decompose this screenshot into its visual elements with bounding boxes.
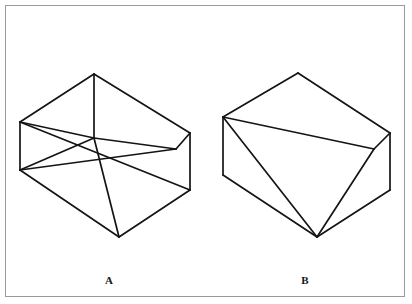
figure-a-drawing	[20, 74, 190, 237]
figure-b-edge-upper_left-to-bottom_apex	[223, 117, 317, 237]
figure-b-edge-lower_left-to-bottom_apex	[223, 175, 317, 237]
figure-b-edge-right_mid-to-upper_right	[374, 133, 390, 149]
figure-b-edge-right_mid-to-bottom_apex	[317, 149, 374, 237]
figure-b-drawing	[223, 73, 390, 237]
figure-a-edge-top_apex-to-upper_right	[94, 74, 190, 133]
figure-b-edge-upper_left-to-right_mid	[223, 117, 374, 149]
figure-page: A B	[0, 0, 412, 304]
figure-a-edge-upper_left-to-top_apex	[20, 74, 94, 122]
figure-a-edge-center-to-right_mid	[94, 138, 176, 149]
figure-a-edge-upper_left-to-center	[20, 122, 94, 138]
figure-b-edge-top_apex-to-upper_right	[298, 73, 390, 133]
figure-b-edge-bottom_apex-to-lower_right	[317, 190, 390, 237]
line-drawing-canvas	[0, 0, 412, 304]
figure-a-edge-bottom_apex-to-lower_right	[119, 190, 190, 237]
figure-a-edge-right_mid-to-upper_right	[176, 133, 190, 149]
figure-b-label: B	[295, 274, 315, 286]
figure-a-label: A	[99, 274, 119, 286]
figure-b-edge-upper_left-to-top_apex	[223, 73, 298, 117]
